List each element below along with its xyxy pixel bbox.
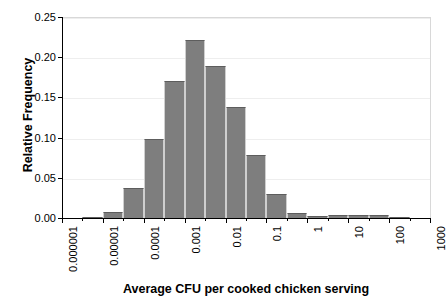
y-tick-mark (58, 138, 62, 139)
x-tick-minor-mark (123, 218, 124, 221)
y-tick-mark (58, 57, 62, 58)
x-tick-mark (103, 218, 104, 223)
x-tick-label: 0.0001 (149, 226, 161, 260)
y-tick-mark (58, 17, 62, 18)
x-tick-minor-mark (246, 218, 247, 221)
x-tick-minor-mark (82, 218, 83, 221)
x-tick-mark (144, 218, 145, 223)
x-tick-minor-mark (287, 218, 288, 221)
x-tick-mark (389, 218, 390, 223)
x-tick-mark (307, 218, 308, 223)
x-tick-label: 0.1 (271, 226, 283, 241)
x-tick-label: 100 (394, 226, 406, 244)
x-tick-label: 1000 (435, 226, 447, 250)
x-tick-mark (185, 218, 186, 223)
x-tick-label: 10 (353, 226, 365, 238)
x-tick-label: 1 (312, 226, 324, 232)
x-tick-minor-mark (410, 218, 411, 221)
x-tick-minor-mark (369, 218, 370, 221)
x-tick-minor-mark (164, 218, 165, 221)
y-tick-mark (58, 178, 62, 179)
x-tick-label: 0.001 (190, 226, 202, 254)
x-tick-mark (62, 218, 63, 223)
x-tick-label: 0.000001 (67, 226, 79, 272)
x-tick-mark (348, 218, 349, 223)
x-tick-mark (266, 218, 267, 223)
x-tick-mark (226, 218, 227, 223)
x-tick-label: 0.00001 (108, 226, 120, 266)
x-tick-minor-mark (205, 218, 206, 221)
x-tick-minor-mark (328, 218, 329, 221)
x-tick-mark (430, 218, 431, 223)
x-axis-title: Average CFU per cooked chicken serving (62, 282, 430, 296)
y-tick-mark (58, 97, 62, 98)
x-tick-label: 0.01 (231, 226, 243, 247)
